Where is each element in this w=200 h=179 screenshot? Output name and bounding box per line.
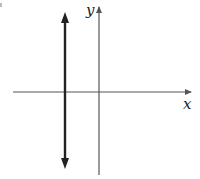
coordinate-plane: y x — [0, 0, 200, 179]
y-axis-label: y — [85, 1, 95, 19]
x-axis-label: x — [183, 95, 192, 113]
arrow-up-icon — [61, 12, 69, 23]
corner-mark — [0, 3, 2, 7]
arrow-down-icon — [61, 158, 69, 169]
